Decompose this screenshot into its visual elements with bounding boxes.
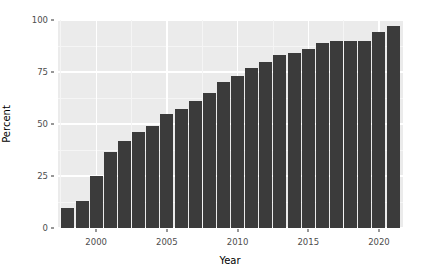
y-tick-mark-50 xyxy=(51,124,54,125)
x-tick-mark-2000 xyxy=(96,229,97,232)
bar-2006 xyxy=(175,109,188,228)
bar-2017 xyxy=(330,41,343,228)
bar-2018 xyxy=(344,41,357,228)
x-tick-label-2020: 2020 xyxy=(368,238,390,247)
bar-2015 xyxy=(302,49,315,228)
x-tick-mark-2020 xyxy=(378,229,379,232)
bar-2019 xyxy=(358,41,371,228)
bar-2010 xyxy=(231,76,244,228)
bar-chart-figure: 0255075100 20002005201020152020 Percent … xyxy=(0,0,427,279)
bar-2011 xyxy=(245,68,258,228)
y-tick-mark-75 xyxy=(51,72,54,73)
x-tick-label-2000: 2000 xyxy=(85,238,107,247)
y-tick-label-25: 25 xyxy=(37,172,48,181)
y-tick-mark-100 xyxy=(51,20,54,21)
bars-group xyxy=(58,20,403,228)
y-tick-label-75: 75 xyxy=(37,68,48,77)
y-tick-mark-0 xyxy=(51,228,54,229)
x-tick-label-2015: 2015 xyxy=(297,238,319,247)
bar-2004 xyxy=(146,126,159,228)
bar-2003 xyxy=(132,132,145,228)
bar-2021 xyxy=(387,26,400,228)
bar-2007 xyxy=(189,101,202,228)
bar-2001 xyxy=(104,152,117,228)
y-tick-label-0: 0 xyxy=(43,224,48,233)
y-tick-label-100: 100 xyxy=(32,16,48,25)
bar-2005 xyxy=(160,114,173,228)
plot-panel xyxy=(58,20,403,228)
bar-2012 xyxy=(259,62,272,228)
x-tick-mark-2015 xyxy=(308,229,309,232)
bar-1998 xyxy=(61,208,74,228)
bar-1999 xyxy=(76,201,89,228)
bar-2002 xyxy=(118,141,131,228)
y-axis-label: Percent xyxy=(1,105,12,143)
x-tick-mark-2005 xyxy=(166,229,167,232)
x-tick-mark-2010 xyxy=(237,229,238,232)
bar-2009 xyxy=(217,82,230,228)
bar-2008 xyxy=(203,93,216,228)
x-axis-label: Year xyxy=(219,255,240,266)
bar-2020 xyxy=(372,32,385,228)
bar-2013 xyxy=(273,55,286,228)
x-axis-ticks: 20002005201020152020 xyxy=(58,229,403,249)
bar-2014 xyxy=(288,53,301,228)
y-tick-label-50: 50 xyxy=(37,120,48,129)
bar-2000 xyxy=(90,176,103,228)
x-tick-label-2005: 2005 xyxy=(156,238,178,247)
y-tick-mark-25 xyxy=(51,176,54,177)
x-tick-label-2010: 2010 xyxy=(227,238,249,247)
bar-2016 xyxy=(316,43,329,228)
